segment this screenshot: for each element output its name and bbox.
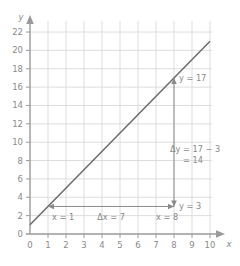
x-axis-tick-label: 6 (135, 240, 140, 250)
label-x-right: x = 8 (156, 212, 178, 222)
y-axis-tick-label: 4 (18, 192, 23, 202)
x-axis-tick-label: 10 (205, 240, 216, 250)
y-axis-tick-label: 6 (18, 174, 23, 184)
x-axis-tick-label: 5 (117, 240, 122, 250)
y-axis-tick-label: 22 (12, 27, 23, 37)
y-axis-title: y (17, 12, 24, 22)
y-axis-tick-label: 14 (12, 100, 23, 110)
y-axis-tick-label: 20 (12, 45, 23, 55)
chart-container: 012345678910 0246810121416182022 x y y =… (0, 0, 240, 266)
label-y-lower: y = 3 (179, 201, 201, 211)
label-delta-x: Δx = 7 (97, 212, 125, 222)
label-y-upper: y = 17 (179, 73, 206, 83)
label-delta-y-line1: Δy = 17 − 3 (170, 144, 220, 154)
x-axis-tick-label: 3 (81, 240, 86, 250)
y-axis-tick-label: 0 (18, 229, 23, 239)
label-delta-y-line2: = 14 (183, 155, 203, 165)
label-x-left: x = 1 (52, 212, 74, 222)
x-axis-tick-label: 8 (171, 240, 176, 250)
y-axis-tick-label: 8 (18, 156, 23, 166)
y-axis-tick-label: 12 (12, 119, 23, 129)
y-axis-tick-label: 2 (18, 211, 23, 221)
x-axis-title: x (225, 239, 232, 249)
x-axis-tick-label: 2 (63, 240, 68, 250)
y-axis-tick-label: 18 (12, 64, 23, 74)
x-axis-tick-label: 7 (153, 240, 158, 250)
line-chart: 012345678910 0246810121416182022 x y y =… (0, 0, 240, 266)
y-axis-tick-label: 10 (12, 137, 23, 147)
x-axis-tick-label: 0 (27, 240, 32, 250)
x-axis-tick-label: 1 (45, 240, 50, 250)
y-axis-tick-label: 16 (12, 82, 23, 92)
x-axis-tick-label: 4 (99, 240, 104, 250)
x-axis-tick-label: 9 (189, 240, 194, 250)
